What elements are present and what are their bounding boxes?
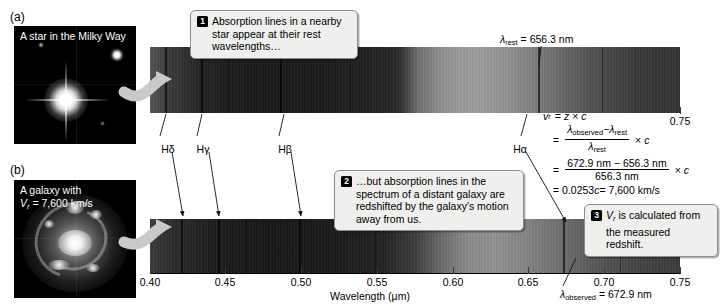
secondary-star: [110, 48, 124, 62]
eq-lambda-observed-sub: observed: [572, 128, 603, 137]
eq-denominator: 656.3 nm: [593, 170, 641, 182]
eq-result-z: = 0.0253: [553, 184, 594, 196]
axis-tick: [680, 267, 681, 274]
eq-lambda-rest-sub: rest: [614, 128, 627, 137]
galaxy-caption-line1: A galaxy with: [20, 184, 93, 197]
leader-h-beta-bottom: [291, 152, 301, 216]
axis-tick-label-040: 0.40: [140, 276, 160, 288]
axis-tick: [453, 267, 454, 274]
eq-denominator: λrest: [586, 140, 608, 156]
galaxy-hii-knot: [48, 260, 70, 270]
star-diffraction-spike: [65, 60, 67, 142]
callout-3-text: Vr is calculated from the measured redsh…: [606, 209, 708, 251]
eq-equals: =: [555, 110, 561, 122]
star-image-caption: A star in the Milky Way: [20, 30, 126, 43]
callout-2-text: …but absorption lines in the spectrum of…: [356, 175, 514, 225]
absorption-line-minor: [246, 219, 247, 273]
galaxy-image: A galaxy with Vr = 7,600 km/s: [14, 180, 136, 298]
axis-tick: [604, 267, 605, 274]
absorption-line-h-beta: [299, 219, 301, 273]
callout-1-text: Absorption lines in a nearby star appear…: [212, 15, 348, 53]
equation-line-1: vr = z × c: [543, 110, 689, 122]
lambda-rest-value: = 656.3 nm: [518, 33, 574, 45]
eq-result-velocity: = 7,600 km/s: [599, 184, 659, 196]
wavelength-axis-line: [150, 273, 680, 274]
absorption-line-h-delta: [181, 219, 183, 273]
panel-letter-b: (b): [10, 163, 25, 177]
leader-h-gamma-bottom: [209, 152, 219, 216]
redshift-equation: vr = z × c = λobserved−λrest λrest × c =…: [543, 110, 689, 197]
callout-1-number: 1: [197, 16, 208, 27]
equation-line-2: = λobserved−λrest λrest × c: [553, 123, 689, 156]
callout-1: 1Absorption lines in a nearby star appea…: [190, 10, 358, 59]
callout-2: 2…but absorption lines in the spectrum o…: [334, 170, 524, 231]
spectral-line-label-h-alpha: Hα: [513, 143, 527, 155]
eq-fraction-symbolic: λobserved−λrest λrest: [565, 123, 629, 156]
galaxy-core: [58, 230, 92, 256]
eq-times: ×: [572, 110, 578, 122]
eq-numerator: λobserved−λrest: [565, 123, 629, 140]
star-image: A star in the Milky Way: [14, 26, 136, 144]
callout-3-vr-symbol: V: [606, 209, 613, 221]
axis-tick: [528, 267, 529, 274]
lambda-observed-subscript: observed: [565, 293, 596, 302]
axis-tick-label-060: 0.60: [443, 276, 463, 288]
vr-value: = 7,600 km/s: [30, 197, 93, 209]
axis-tick: [377, 267, 378, 274]
leader-h-delta-top: [160, 114, 166, 136]
star-diffraction-spike: [24, 99, 110, 101]
eq-c-symbol: c: [644, 134, 649, 146]
eq-fraction-numeric: 672.9 nm − 656.3 nm 656.3 nm: [565, 157, 669, 182]
vr-symbol: V: [20, 197, 27, 209]
spectral-line-label-h-gamma: Hγ: [197, 143, 210, 155]
eq-equals: =: [553, 134, 559, 146]
eq-times: ×: [675, 164, 681, 176]
axis-tick-label-050: 0.50: [291, 276, 311, 288]
absorption-line-h-alpha: [538, 47, 540, 113]
axis-tick: [301, 267, 302, 274]
eq-vr-subscript: r: [548, 112, 551, 121]
galaxy-hii-knot: [44, 220, 54, 228]
axis-tick-label-075: 0.75: [670, 276, 690, 288]
eq-equals: =: [553, 164, 559, 176]
absorption-line-h-gamma: [218, 219, 220, 273]
equation-line-3: = 672.9 nm − 656.3 nm 656.3 nm × c: [553, 157, 689, 182]
leader-h-gamma-top: [197, 114, 202, 136]
absorption-line-h-alpha: [563, 219, 565, 273]
axis-tick-label-070: 0.70: [594, 276, 614, 288]
eq-times: ×: [635, 134, 641, 146]
leader-h-delta-bottom: [172, 152, 183, 216]
lambda-rest-subscript: rest: [505, 38, 518, 47]
eq-c-symbol: c: [581, 110, 586, 122]
lambda-observed-value: = 672.9 nm: [596, 288, 652, 300]
eq-lambda-rest-den-sub: rest: [593, 145, 606, 154]
galaxy-image-caption: A galaxy with Vr = 7,600 km/s: [20, 184, 93, 213]
callout-2-number: 2: [341, 176, 352, 187]
callout-3: 3Vr is calculated from the measured reds…: [584, 204, 718, 257]
galaxy-caption-line2: Vr = 7,600 km/s: [20, 197, 93, 213]
axis-tick: [225, 267, 226, 274]
callout-3-rest-text: is calculated from the measured redshift…: [606, 209, 700, 250]
eq-z-symbol: z: [564, 110, 569, 122]
equation-line-4: = 0.0253 c = 7,600 km/s: [553, 184, 689, 196]
lambda-observed-annotation: λobserved = 672.9 nm: [560, 288, 652, 302]
callout-3-number: 3: [591, 210, 602, 221]
spectral-line-label-h-beta: Hβ: [278, 143, 292, 155]
leader-h-alpha-top: [521, 114, 527, 136]
axis-tick-label-055: 0.55: [367, 276, 387, 288]
absorption-line-minor: [602, 47, 603, 113]
panel-letter-a: (a): [10, 10, 25, 24]
eq-c-symbol: c: [684, 164, 689, 176]
lambda-rest-annotation: λrest = 656.3 nm: [500, 33, 573, 47]
eq-numerator: 672.9 nm − 656.3 nm: [565, 157, 669, 170]
spectral-line-label-h-delta: Hδ: [161, 143, 174, 155]
axis-tick-label-045: 0.45: [215, 276, 235, 288]
axis-title: Wavelength (μm): [330, 290, 410, 302]
faint-star: [100, 121, 105, 126]
star-caption-text: A star in the Milky Way: [20, 30, 126, 42]
absorption-line-h-delta: [165, 47, 167, 113]
leader-h-beta-top: [279, 114, 284, 136]
galaxy-hii-knot: [86, 264, 100, 272]
axis-tick: [150, 267, 151, 274]
axis-tick-label-065: 0.65: [518, 276, 538, 288]
